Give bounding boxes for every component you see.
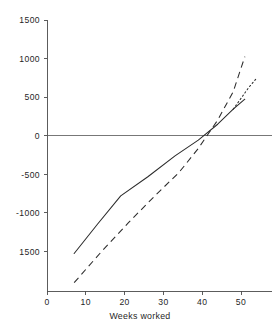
axis-frame (47, 20, 272, 291)
y-tick-label-0: 0 (35, 131, 40, 141)
x-tick-label-0: 0 (44, 297, 49, 307)
y-tick-label-500: 500 (24, 92, 40, 102)
series-dotted-curve (233, 78, 256, 109)
series-group (74, 57, 256, 283)
x-axis-ticks (47, 291, 241, 295)
x-axis-title: Weeks worked (109, 311, 170, 321)
x-tick-label-20: 20 (119, 297, 129, 307)
y-tick-label-neg500: -500 (21, 170, 40, 180)
y-tick-label-neg1000: -1000 (16, 208, 40, 218)
x-tick-label-40: 40 (197, 297, 207, 307)
x-tick-labels: 0 10 20 30 40 50 (44, 297, 246, 307)
line-chart: 1500 1000 500 0 -500 -1000 1500 0 10 20 … (0, 0, 277, 326)
y-axis-ticks (44, 20, 48, 251)
y-tick-label-1000: 1000 (19, 54, 40, 64)
x-tick-label-30: 30 (158, 297, 168, 307)
y-tick-label-neg1500: 1500 (19, 247, 40, 257)
series-dashed-curve (74, 57, 245, 283)
x-tick-label-50: 50 (236, 297, 246, 307)
chart-container: 1500 1000 500 0 -500 -1000 1500 0 10 20 … (0, 0, 277, 326)
y-tick-labels: 1500 1000 500 0 -500 -1000 1500 (16, 15, 40, 256)
series-solid-curve (74, 99, 245, 253)
y-tick-label-1500: 1500 (19, 15, 40, 25)
x-tick-label-10: 10 (81, 297, 91, 307)
